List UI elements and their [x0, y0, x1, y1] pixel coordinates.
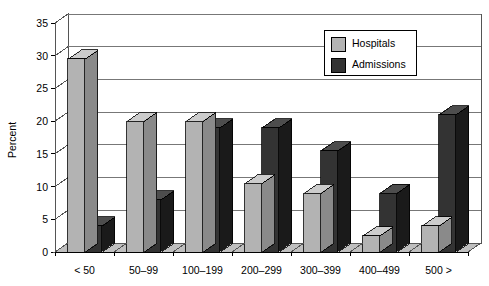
- legend-label: Admissions: [352, 58, 406, 70]
- legend-swatch: [331, 37, 345, 51]
- x-tick-label: 200–299: [241, 264, 282, 276]
- x-tick-label: 100–199: [182, 264, 223, 276]
- y-axis-title: Percent: [6, 122, 18, 158]
- y-tick-label: 10: [36, 181, 48, 193]
- x-tick-label: 500 >: [425, 264, 452, 276]
- y-tick-label: 0: [42, 246, 48, 258]
- y-tick-label: 20: [36, 115, 48, 127]
- bar-hospitals: [68, 50, 98, 252]
- bar-hospitals: [186, 112, 216, 252]
- bar-hospitals: [127, 112, 157, 252]
- y-tick-label: 15: [36, 148, 48, 160]
- bar-chart: 05101520253035 < 5050–99100–199200–29930…: [0, 0, 489, 286]
- chart-canvas: 05101520253035 < 5050–99100–199200–29930…: [0, 0, 489, 286]
- y-tick-label: 35: [36, 17, 48, 29]
- y-tick-label: 5: [42, 213, 48, 225]
- x-tick-label: 50–99: [129, 264, 158, 276]
- x-tick-labels: < 5050–99100–199200–299300–399400–499500…: [74, 264, 452, 276]
- y-tick-label: 30: [36, 50, 48, 62]
- y-tick-label: 25: [36, 82, 48, 94]
- x-tick-label: 300–399: [300, 264, 341, 276]
- bar-hospitals: [304, 184, 334, 252]
- x-tick-label: 400–499: [359, 264, 400, 276]
- x-tick-label: < 50: [74, 264, 95, 276]
- bar-hospitals: [245, 174, 275, 252]
- chart-legend[interactable]: HospitalsAdmissions: [324, 30, 416, 75]
- legend-swatch: [331, 58, 345, 72]
- legend-label: Hospitals: [352, 37, 395, 49]
